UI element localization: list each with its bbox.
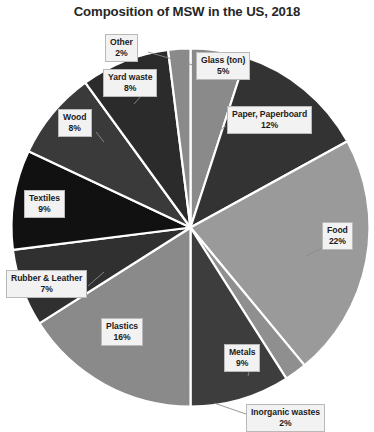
callout-paper-value: 12% [232, 120, 307, 131]
callout-metals-value: 9% [229, 358, 255, 369]
callout-textiles-label: Textiles [29, 193, 60, 204]
callout-leader-line [214, 403, 246, 414]
pie-slice-group [12, 49, 370, 407]
callout-yard-waste-value: 8% [108, 83, 152, 94]
callout-inorganic-wastes-value: 2% [251, 418, 320, 429]
callout-paper: Paper, Paperboard 12% [227, 106, 312, 134]
callout-inorganic-wastes: Inorganic wastes 2% [246, 404, 325, 432]
callout-inorganic-wastes-label: Inorganic wastes [251, 407, 320, 418]
callout-rubber-leather: Rubber & Leather 7% [6, 270, 87, 298]
callout-food-label: Food [327, 225, 348, 236]
callout-glass: Glass (ton) 5% [196, 52, 250, 80]
callout-glass-label: Glass (ton) [201, 55, 245, 66]
callout-metals-label: Metals [229, 347, 255, 358]
callout-wood-label: Wood [63, 112, 87, 123]
callout-yard-waste: Yard waste 8% [103, 69, 157, 97]
callout-plastics-value: 16% [106, 332, 138, 343]
callout-food: Food 22% [322, 222, 353, 250]
callout-plastics: Plastics 16% [101, 318, 143, 346]
callout-wood: Wood 8% [58, 109, 92, 137]
callout-rubber-leather-label: Rubber & Leather [11, 273, 82, 284]
callout-textiles: Textiles 9% [24, 190, 65, 218]
callout-other-label: Other [110, 37, 133, 48]
callout-wood-value: 8% [63, 123, 87, 134]
callout-paper-label: Paper, Paperboard [232, 109, 307, 120]
callout-metals: Metals 9% [224, 344, 260, 372]
callout-yard-waste-label: Yard waste [108, 72, 152, 83]
callout-food-value: 22% [327, 236, 348, 247]
callout-glass-value: 5% [201, 66, 245, 77]
callout-other: Other 2% [105, 34, 138, 62]
callout-other-value: 2% [110, 48, 133, 59]
callout-textiles-value: 9% [29, 204, 60, 215]
callout-rubber-leather-value: 7% [11, 284, 82, 295]
callout-plastics-label: Plastics [106, 321, 138, 332]
